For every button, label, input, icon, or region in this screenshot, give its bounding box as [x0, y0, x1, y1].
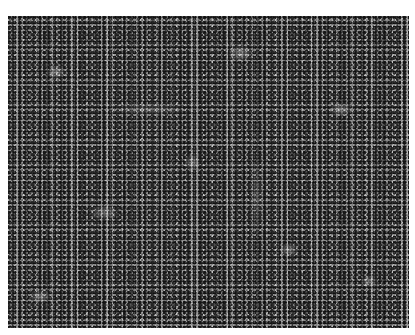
light-cell-patches	[8, 16, 409, 328]
page-canvas	[0, 0, 415, 335]
micrograph-image	[8, 16, 409, 328]
image-grain	[8, 16, 409, 328]
